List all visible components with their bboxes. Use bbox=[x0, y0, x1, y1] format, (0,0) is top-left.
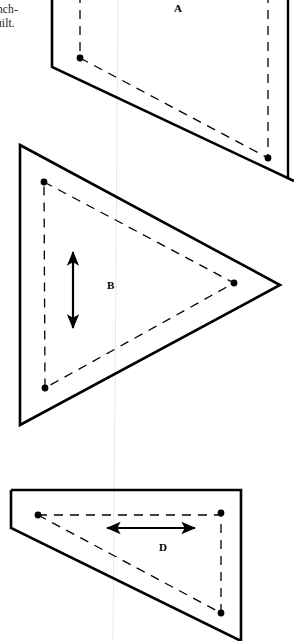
pattern-piece-a bbox=[52, 0, 294, 181]
pattern-diagram bbox=[0, 0, 294, 641]
text-fragment-inch: nch- bbox=[0, 2, 18, 16]
piece-b-seam-dot bbox=[231, 280, 238, 287]
piece-a-seam-line bbox=[80, 58, 268, 158]
piece-d-cut-line bbox=[11, 490, 241, 641]
piece-d-seam-dot bbox=[218, 610, 225, 617]
piece-b-cut-line bbox=[20, 145, 280, 425]
piece-b-seam-dot bbox=[41, 179, 48, 186]
piece-d-seam-diagonal bbox=[38, 515, 221, 613]
piece-a-seam-dot bbox=[77, 55, 84, 62]
piece-label-a: A bbox=[174, 2, 182, 14]
piece-a-seam-dot bbox=[265, 155, 272, 162]
text-fragment-quilt: uilt. bbox=[0, 16, 15, 30]
piece-a-cut-line bbox=[52, 0, 294, 181]
piece-label-d: D bbox=[159, 541, 167, 553]
piece-label-b: B bbox=[107, 279, 115, 291]
pattern-piece-b bbox=[20, 145, 280, 425]
pattern-page: nch- uilt. A B D bbox=[0, 0, 294, 641]
pattern-piece-d bbox=[11, 490, 241, 641]
piece-d-seam-dot bbox=[35, 512, 42, 519]
piece-b-seam-dot bbox=[42, 385, 49, 392]
piece-d-seam-dot bbox=[218, 510, 225, 517]
